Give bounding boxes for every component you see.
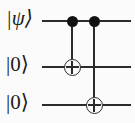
- qubit-label-q2: |0⟩: [6, 92, 29, 113]
- cnot-control-dot-1: [89, 16, 100, 27]
- qubit-wire-q1: [42, 66, 131, 68]
- cnot-target-oplus-0: [64, 59, 81, 76]
- qubit-label-q0: |ψ⟩: [6, 8, 33, 29]
- qubit-wire-q0: [42, 20, 131, 22]
- cnot-control-dot-0: [67, 16, 78, 27]
- cnot-target-oplus-1: [86, 97, 103, 114]
- cnot-connector-line-1: [93, 21, 95, 105]
- quantum-circuit-diagram: |ψ⟩ |0⟩ |0⟩: [0, 0, 135, 123]
- qubit-label-q1: |0⟩: [6, 54, 29, 75]
